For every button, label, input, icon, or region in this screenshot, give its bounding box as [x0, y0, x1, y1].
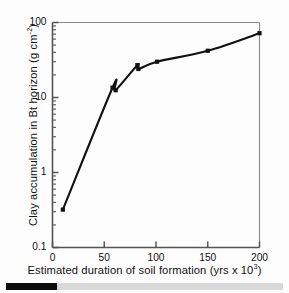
data-point-3 [135, 63, 139, 67]
data-point-4 [136, 67, 140, 71]
data-point-6 [206, 49, 210, 53]
figure: Clay accumulation in Bt horizon (g cm-2)… [0, 0, 289, 293]
data-point-2 [114, 88, 118, 92]
data-point-7 [257, 31, 261, 35]
data-point-5 [155, 60, 159, 64]
plot-area [0, 0, 289, 293]
data-point-0 [61, 208, 65, 212]
footer-bar-dark [6, 283, 57, 290]
